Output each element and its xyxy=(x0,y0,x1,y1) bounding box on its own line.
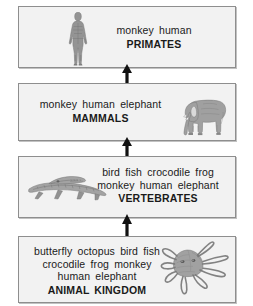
level-box-primates[interactable]: monkey human PRIMATES xyxy=(18,6,236,68)
group-label-mammals: MAMMALS xyxy=(23,112,178,125)
level-text-primates: monkey human PRIMATES xyxy=(79,24,229,50)
classification-diagram: monkey human PRIMATES xyxy=(0,0,253,306)
members-list-animal-kingdom-line3: human elephant xyxy=(21,270,173,283)
members-list-primates: monkey human xyxy=(79,24,229,37)
members-list-animal-kingdom-line2: crocodile frog monkey xyxy=(21,258,173,271)
elephant-illustration xyxy=(177,88,235,139)
level-text-vertebrates: bird fish crocodile frog monkey human el… xyxy=(85,166,231,205)
level-text-mammals: monkey human elephant MAMMALS xyxy=(23,98,178,124)
members-list-animal-kingdom-line1: butterfly octopus bird fish xyxy=(21,245,173,258)
level-box-animal-kingdom[interactable]: butterfly octopus bird fish crocodile fr… xyxy=(18,236,236,303)
members-list-mammals: monkey human elephant xyxy=(23,98,178,111)
level-box-vertebrates[interactable]: bird fish crocodile frog monkey human el… xyxy=(18,156,236,218)
group-label-primates: PRIMATES xyxy=(79,38,229,51)
members-list-vertebrates-line1: bird fish crocodile frog xyxy=(85,166,231,179)
level-box-mammals[interactable]: monkey human elephant MAMMALS xyxy=(18,83,236,141)
level-text-animal-kingdom: butterfly octopus bird fish crocodile fr… xyxy=(21,245,173,296)
members-list-vertebrates-line2: monkey human elephant xyxy=(85,179,231,192)
group-label-animal-kingdom: ANIMAL KINGDOM xyxy=(21,284,173,297)
group-label-vertebrates: VERTEBRATES xyxy=(85,192,231,205)
